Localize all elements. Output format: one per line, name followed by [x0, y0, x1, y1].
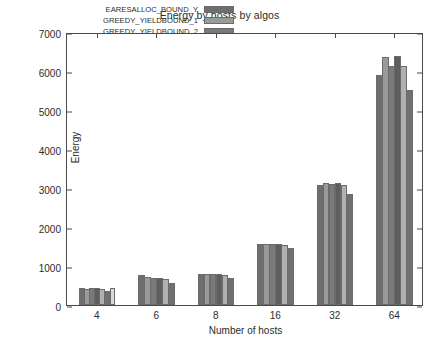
x-tick-label: 4	[94, 310, 100, 321]
x-tick-label: 64	[389, 310, 400, 321]
x-tick-mark	[97, 34, 98, 38]
x-tick-mark	[275, 34, 276, 38]
y-tick-label: 4000	[39, 146, 67, 157]
y-tick-mark	[67, 73, 72, 74]
y-tick-mark	[417, 307, 422, 308]
y-tick-mark	[67, 268, 72, 269]
x-axis-label: Number of hosts	[67, 325, 424, 336]
y-tick-label: 3000	[39, 185, 67, 196]
y-tick-mark	[417, 229, 422, 230]
legend-item-label: EARESALLOC_BOUND_Y	[106, 5, 198, 14]
legend-item: EARESALLOC_BOUND_Y	[103, 4, 234, 14]
y-tick-mark	[417, 34, 422, 35]
y-tick-mark	[67, 229, 72, 230]
y-tick-mark	[67, 307, 72, 308]
legend-swatch	[204, 17, 234, 24]
bar	[347, 194, 354, 305]
y-tick-mark	[67, 151, 72, 152]
x-tick-label: 32	[329, 310, 340, 321]
y-tick-mark	[67, 34, 72, 35]
x-tick-mark	[335, 34, 336, 38]
y-tick-mark	[67, 112, 72, 113]
y-tick-mark	[417, 73, 422, 74]
y-tick-mark	[417, 112, 422, 113]
y-tick-label: 2000	[39, 224, 67, 235]
legend-item: GREEDY_YIELDBOUND_1	[103, 15, 234, 25]
bar	[406, 90, 413, 305]
x-tick-mark	[394, 34, 395, 38]
x-tick-label: 6	[153, 310, 159, 321]
y-tick-mark	[417, 151, 422, 152]
figure-caption	[0, 345, 439, 355]
y-tick-mark	[417, 190, 422, 191]
y-tick-mark	[67, 190, 72, 191]
figure: Energy by hosts by algos EARESALLOC_BOUN…	[0, 0, 439, 355]
y-tick-label: 1000	[39, 263, 67, 274]
bar	[168, 283, 175, 305]
x-tick-mark	[156, 34, 157, 38]
plot-area: Energy 01000200030004000500060007000 468…	[66, 33, 423, 306]
x-tick-label: 16	[270, 310, 281, 321]
y-tick-label: 5000	[39, 107, 67, 118]
y-tick-label: 0	[55, 302, 67, 313]
y-tick-mark	[417, 268, 422, 269]
y-tick-label: 6000	[39, 68, 67, 79]
legend-swatch	[204, 6, 234, 13]
bar	[110, 288, 116, 305]
y-tick-label: 7000	[39, 29, 67, 40]
legend-item-label: GREEDY_YIELDBOUND_1	[103, 16, 198, 25]
x-tick-mark	[216, 34, 217, 38]
bar	[228, 278, 235, 305]
x-tick-label: 8	[213, 310, 219, 321]
bar	[287, 248, 294, 305]
